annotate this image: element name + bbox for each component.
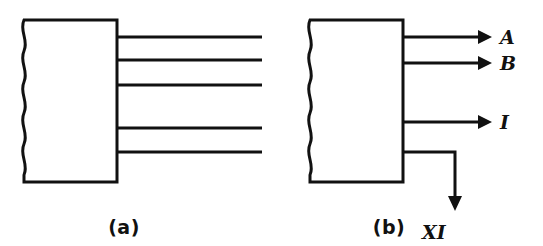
arrow-head-xi [448, 196, 462, 211]
panel-b: A B I XI (b) [309, 20, 517, 243]
signal-line-diagram: (a) A B I [0, 0, 543, 246]
panel-b-block-outline [309, 20, 403, 182]
panel-b-signal-b: B [403, 52, 516, 74]
figure-root: (a) A B I [0, 0, 543, 246]
panel-a-block-outline [23, 20, 117, 182]
signal-label-b: B [499, 52, 516, 74]
panel-b-signal-a: A [403, 26, 515, 48]
panel-b-signal-xi: XI [403, 152, 462, 243]
arrow-head-b [478, 56, 492, 70]
arrow-head-i [478, 115, 492, 129]
panel-b-signal-i: I [403, 111, 510, 133]
panel-a-caption: (a) [108, 216, 140, 238]
arrow-head-a [478, 30, 492, 44]
signal-label-i: I [499, 111, 510, 133]
panel-b-signal-line-xi [403, 152, 455, 196]
signal-label-xi: XI [421, 221, 447, 243]
panel-b-caption: (b) [373, 216, 405, 238]
signal-label-a: A [498, 26, 515, 48]
panel-a: (a) [23, 20, 262, 238]
